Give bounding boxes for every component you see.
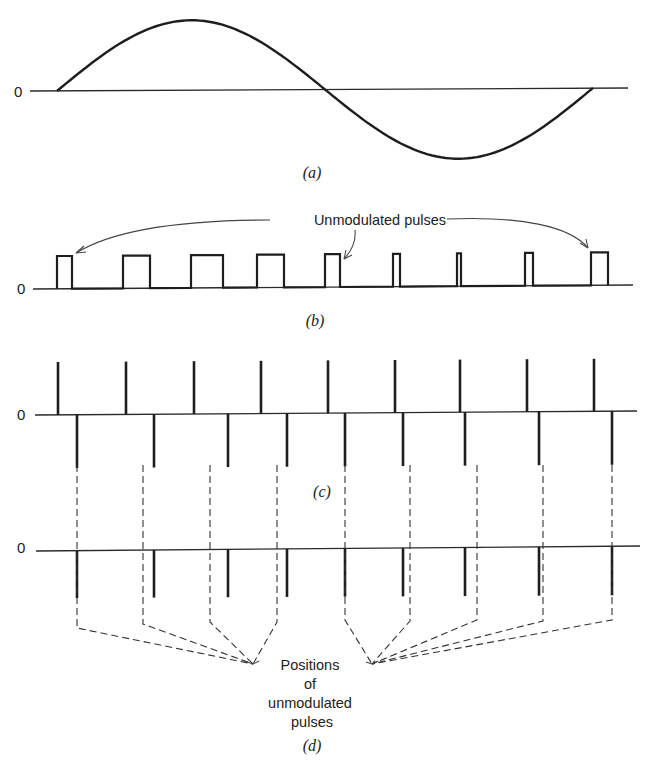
panel-b: 0 Unmodulated pulses (b) <box>17 212 633 330</box>
caption-d: (d) <box>303 737 322 755</box>
zero-label-c: 0 <box>17 406 25 423</box>
convergence-arrowhead-icon <box>247 661 259 664</box>
arrow-right <box>447 218 588 248</box>
position-guide-dash <box>372 465 477 664</box>
sine-wave <box>57 20 593 159</box>
axis-a <box>30 88 628 91</box>
arrow-middle <box>344 230 355 259</box>
caption-b: (b) <box>306 312 325 330</box>
position-guide-dash <box>253 465 277 664</box>
position-guide-dash <box>345 465 372 664</box>
arrow-left <box>76 220 270 253</box>
zero-label-a: 0 <box>14 83 22 100</box>
panel-c: 0 (c) <box>17 359 637 501</box>
caption-c: (c) <box>313 483 331 501</box>
axis-d <box>36 546 640 551</box>
zero-label-d: 0 <box>17 539 25 556</box>
unmodulated-position-dashes <box>77 465 612 664</box>
convergence-arrowhead-icon <box>366 661 378 664</box>
position-guide-dash <box>143 465 253 664</box>
zero-label-b: 0 <box>17 280 25 297</box>
unmodulated-pulses-label: Unmodulated pulses <box>314 212 446 228</box>
ppm-figure: 0 (a) 0 Unmodulated pulses (b) 0 (c) 0 P… <box>0 0 657 771</box>
position-guide-dash <box>372 465 612 664</box>
positions-label: Positions of unmodulated pulses <box>268 657 356 730</box>
pwm-pulse-train <box>57 252 608 288</box>
caption-a: (a) <box>303 164 322 182</box>
position-guide-dash <box>77 465 253 664</box>
position-guide-dash <box>372 465 543 664</box>
panel-d: 0 Positions of unmodulated pulses (d) <box>17 465 640 755</box>
panel-a: 0 (a) <box>14 20 628 182</box>
position-guide-dash <box>210 465 253 664</box>
